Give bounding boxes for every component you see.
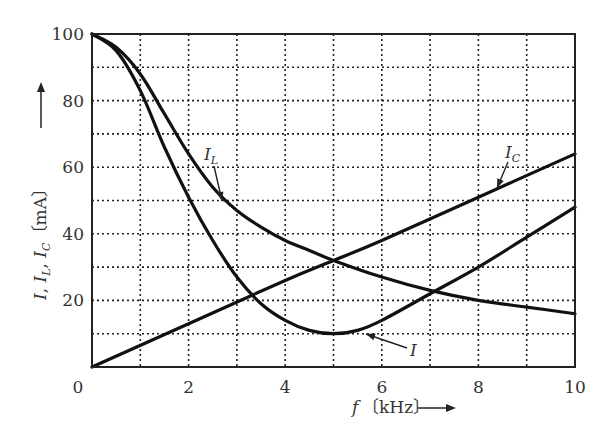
y-axis-label: I, IL, IC〔mA〕 [30,82,53,301]
x-axis-arrow-icon [446,404,456,412]
y-axis-arrow-icon [37,82,45,92]
svg-text:I, IL, IC〔mA〕: I, IL, IC〔mA〕 [30,180,53,301]
y-tick-label: 40 [62,224,84,244]
annotation-I-arrowhead-icon [366,334,376,341]
frequency-current-chart: 0246810 20406080100 ILICI f 〔kHz〕 I, IL,… [0,0,603,442]
y-tick-label: 20 [62,290,84,310]
curve-i [92,34,575,334]
annotation-label-IL: IL [203,144,218,167]
y-label-IL-sub: L [40,268,53,276]
y-tick-label: 100 [52,24,84,44]
x-tick-label: 6 [376,377,387,397]
x-axis-label-symbol: f [350,397,361,417]
annotation-label-I: I [409,340,417,360]
x-tick-label: 8 [473,377,484,397]
x-tick-label: 4 [280,377,291,397]
x-axis-ticks: 0246810 [73,377,586,397]
x-tick-label: 0 [73,377,84,397]
annotations: ILICI [203,142,521,360]
x-tick-label: 10 [564,377,586,397]
x-axis-label-unit: 〔kHz〕 [362,397,430,417]
y-axis-ticks: 20406080100 [52,24,84,310]
grid [92,34,575,367]
y-tick-label: 80 [62,91,84,111]
y-tick-label: 60 [62,157,84,177]
x-axis-label: f 〔kHz〕 [350,397,456,417]
x-tick-label: 2 [183,377,194,397]
y-label-unit: 〔mA〕 [30,180,50,242]
annotation-label-IC: IC [504,142,521,165]
